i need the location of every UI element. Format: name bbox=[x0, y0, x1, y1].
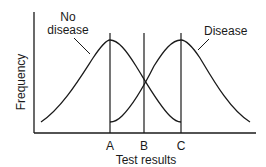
cutoff-label-b: B bbox=[140, 139, 148, 153]
cutoff-label-a: A bbox=[106, 139, 114, 153]
cutoff-label-c: C bbox=[177, 139, 186, 153]
no-disease-label-line2: disease bbox=[47, 23, 89, 37]
disease-label: Disease bbox=[204, 24, 248, 38]
no-disease-curve bbox=[41, 40, 181, 122]
disease-curve bbox=[110, 40, 250, 122]
no-disease-pointer bbox=[74, 38, 90, 54]
x-axis-label: Test results bbox=[116, 153, 177, 167]
disease-pointer bbox=[198, 39, 209, 50]
y-axis-label: Frequency bbox=[14, 54, 28, 111]
diagram-canvas: No disease Disease Frequency A B C Test … bbox=[0, 0, 266, 167]
no-disease-label-line1: No bbox=[60, 10, 76, 24]
